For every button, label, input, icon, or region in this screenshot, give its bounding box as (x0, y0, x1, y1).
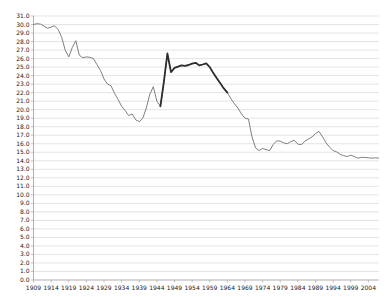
y-tick-label: 26.0 (16, 55, 30, 62)
y-tick-label: 8.0 (20, 208, 30, 215)
y-tick-label: 30.0 (16, 21, 30, 28)
y-tick-label: 16.0 (16, 140, 30, 147)
y-tick-label: 9.0 (20, 199, 30, 206)
y-tick-label: 15.0 (16, 148, 30, 155)
axes-group (31, 16, 379, 283)
y-tick-label: 27.0 (16, 46, 30, 53)
data-line (34, 24, 379, 159)
chart-container: 0.01.02.03.04.05.06.07.08.09.010.011.012… (0, 0, 385, 297)
y-tick-label: 20.0 (16, 106, 30, 113)
x-tick-label: 1974 (255, 284, 270, 291)
x-tick-label: 1964 (220, 284, 235, 291)
x-tick-label: 1919 (61, 284, 76, 291)
y-tick-label: 17.0 (16, 131, 30, 138)
y-tick-label: 1.0 (20, 267, 30, 274)
x-tick-label: 1939 (132, 284, 147, 291)
y-tick-label: 0.0 (20, 276, 30, 283)
x-tick-label: 1979 (273, 284, 288, 291)
x-tick-label: 1999 (343, 284, 358, 291)
y-tick-label: 3.0 (20, 250, 30, 257)
x-tick-label: 1954 (184, 284, 199, 291)
y-tick-label: 28.0 (16, 38, 30, 45)
line-chart-svg: 0.01.02.03.04.05.06.07.08.09.010.011.012… (0, 0, 385, 297)
x-tick-label: 1929 (96, 284, 111, 291)
x-tick-label: 1924 (79, 284, 94, 291)
x-tick-label: 2004 (361, 284, 376, 291)
y-tick-label: 2.0 (20, 259, 30, 266)
y-axis-labels-group: 0.01.02.03.04.05.06.07.08.09.010.011.012… (16, 12, 30, 283)
y-tick-label: 25.0 (16, 63, 30, 70)
x-tick-label: 1969 (237, 284, 252, 291)
y-tick-label: 14.0 (16, 157, 30, 164)
x-tick-label: 1909 (26, 284, 41, 291)
y-tick-label: 5.0 (20, 233, 30, 240)
y-tick-label: 31.0 (16, 12, 30, 19)
x-axis-labels-group: 1909191419191924192919341939194419491954… (26, 284, 376, 291)
x-tick-label: 1984 (290, 284, 305, 291)
x-tick-label: 1994 (325, 284, 340, 291)
y-tick-label: 22.0 (16, 89, 30, 96)
x-tick-label: 1989 (308, 284, 323, 291)
y-tick-label: 10.0 (16, 191, 30, 198)
y-tick-label: 11.0 (16, 182, 30, 189)
y-tick-label: 6.0 (20, 225, 30, 232)
x-tick-label: 1944 (149, 284, 164, 291)
data-series-group (34, 24, 379, 159)
y-tick-label: 7.0 (20, 216, 30, 223)
y-tick-label: 12.0 (16, 174, 30, 181)
y-tick-label: 13.0 (16, 165, 30, 172)
data-line-highlight (160, 54, 227, 107)
x-tick-label: 1934 (114, 284, 129, 291)
x-tick-label: 1914 (43, 284, 58, 291)
y-tick-label: 19.0 (16, 114, 30, 121)
x-tick-label: 1949 (167, 284, 182, 291)
y-tick-label: 24.0 (16, 72, 30, 79)
y-tick-label: 29.0 (16, 29, 30, 36)
y-tick-label: 4.0 (20, 242, 30, 249)
y-tick-label: 21.0 (16, 97, 30, 104)
y-tick-label: 18.0 (16, 123, 30, 130)
y-tick-label: 23.0 (16, 80, 30, 87)
x-tick-label: 1959 (202, 284, 217, 291)
